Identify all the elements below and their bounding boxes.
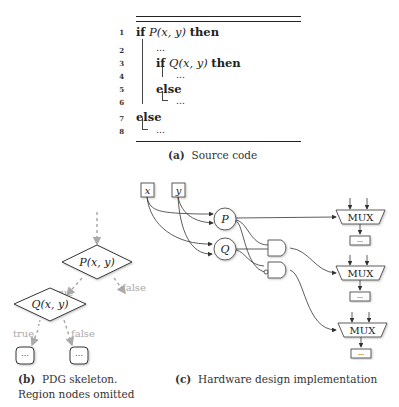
- wire-x-p: [147, 197, 213, 214]
- caption-c: (c) Hardware design implementation: [175, 373, 377, 385]
- mux-1-label: MUX: [348, 212, 375, 223]
- input-x-label: x: [145, 185, 151, 196]
- pdg-leaf-2-label: ⋯: [75, 351, 83, 360]
- pdg-edge-label: false: [122, 282, 146, 293]
- wire-and1-mux2: [290, 248, 336, 273]
- and-gate-2: [268, 262, 286, 278]
- wire-and2-mux3: [290, 270, 336, 330]
- inverter-bubble: [264, 270, 268, 274]
- input-y-label: y: [175, 185, 182, 196]
- pdg-node-p-label: P(x, y): [78, 256, 114, 269]
- wire-x-q: [147, 197, 212, 244]
- mux2-out-label: ⋯: [357, 293, 363, 300]
- caption-b-line2: Region nodes omitted: [18, 388, 134, 400]
- caption-b: (b) PDG skeleton.: [18, 373, 117, 385]
- hw-node-q-label: Q: [220, 243, 229, 256]
- hw-node-p-label: P: [220, 213, 229, 226]
- pdg-graph: P(x, y) true false Q(x, y) true false ⋯ …: [13, 212, 146, 364]
- and-gate-1: [268, 240, 286, 256]
- wire-p-mux1: [236, 217, 336, 218]
- diagram-canvas: P(x, y) true false Q(x, y) true false ⋯ …: [0, 0, 399, 407]
- mux3-out-label: ⋯: [358, 350, 364, 357]
- mux-3-label: MUX: [350, 325, 377, 336]
- pdg-edge-label: true: [13, 328, 34, 339]
- pdg-leaf-1-label: ⋯: [21, 351, 29, 360]
- pdg-edge-label: false: [71, 328, 95, 339]
- wire-y-p: [178, 197, 213, 223]
- wire-y-q: [178, 197, 212, 254]
- pdg-edge-q-true-start: [38, 320, 40, 328]
- wire-p-and1: [236, 220, 268, 245]
- mux1-out-label: ⋯: [357, 237, 363, 244]
- mux-2-label: MUX: [348, 268, 375, 279]
- pdg-node-q-label: Q(x, y): [31, 298, 68, 311]
- wire-p-and2: [236, 221, 266, 272]
